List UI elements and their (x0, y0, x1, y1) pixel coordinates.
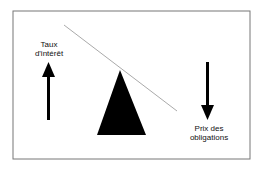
down-arrow-icon (201, 62, 214, 120)
label-line: d'intérêt (28, 49, 70, 58)
fulcrum-triangle (97, 70, 146, 135)
interest-rate-label: Taux d'intérêt (28, 40, 70, 58)
bond-price-label: Prix des obligations (185, 124, 233, 142)
label-line: Taux (28, 40, 70, 49)
up-arrow-icon (42, 62, 55, 120)
label-line: Prix des (185, 124, 233, 133)
label-line: obligations (185, 133, 233, 142)
seesaw-diagram (0, 0, 263, 170)
